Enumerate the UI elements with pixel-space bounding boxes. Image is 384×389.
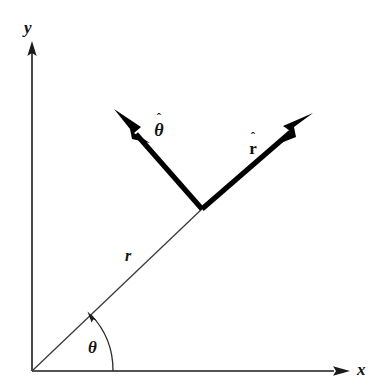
theta-hat-arrowhead <box>114 109 150 143</box>
polar-coordinate-figure: y x r θ ˆ θ ˆ r <box>0 0 384 389</box>
theta-hat-symbol: θ <box>148 121 170 139</box>
y-axis <box>27 41 36 371</box>
radial-line-group <box>32 207 204 371</box>
radial-length-label: r <box>125 248 131 264</box>
y-axis-label: y <box>24 19 32 36</box>
r-hat-arrowhead <box>277 113 313 145</box>
r-hat-vector <box>202 113 313 209</box>
polar-diagram-canvas <box>0 0 384 389</box>
theta-hat-label: ˆ θ <box>148 114 170 139</box>
radial-line-r <box>32 207 204 371</box>
x-axis-label: x <box>357 361 366 378</box>
r-hat-symbol: r <box>244 140 262 158</box>
theta-angle-label: θ <box>88 339 97 356</box>
x-axis-arrowhead <box>333 366 350 376</box>
r-hat-label: ˆ r <box>244 133 262 158</box>
theta-hat-shaft <box>136 134 202 209</box>
x-axis <box>32 366 350 376</box>
